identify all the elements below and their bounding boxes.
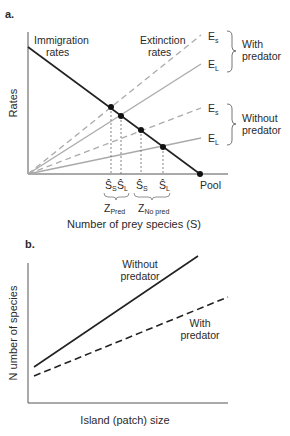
immigration-label-1: Immigration: [34, 34, 89, 46]
s-hat-label: ŜS: [136, 179, 148, 192]
without-predator-label-2: predator: [242, 124, 282, 136]
without-predator-line: [34, 256, 198, 367]
equilibrium-point: [108, 104, 114, 110]
es-with-label: Es: [208, 30, 219, 44]
z-no-pred-brace: [134, 193, 170, 200]
z-pred-label: ZPred: [104, 202, 125, 215]
panel-b-letter: b.: [25, 238, 35, 250]
without-predator-brace: [227, 104, 236, 145]
el-with-label: EL: [208, 58, 219, 72]
figure: a. Rates Immigration rates Extinction ra…: [0, 0, 290, 436]
panel-b-y-label: N umber of species: [7, 285, 19, 380]
es-without-label: Es: [208, 102, 219, 116]
pool-label: Pool: [200, 179, 221, 191]
extinction-label-1: Extinction: [140, 34, 186, 46]
with-predator-b-label-1: With: [190, 317, 211, 329]
pool-point: [197, 171, 203, 177]
without-predator-b-label-1: Without: [122, 258, 158, 270]
with-predator-label-2: predator: [242, 50, 282, 62]
immigration-line: [28, 47, 200, 174]
without-predator-label-1: Without: [242, 112, 278, 124]
z-no-pred-label: ZNo pred: [138, 202, 169, 216]
with-predator-b-label-2: predator: [180, 329, 220, 341]
panel-a: a. Rates Immigration rates Extinction ra…: [5, 8, 282, 230]
s-hat-label: ŜS: [105, 179, 117, 192]
equilibrium-point: [160, 144, 166, 150]
panel-a-x-label: Number of prey species (S): [67, 218, 201, 230]
panel-a-letter: a.: [5, 8, 14, 20]
without-predator-b-label-2: predator: [120, 270, 160, 282]
s-hat-label: ŜL: [117, 179, 128, 192]
extinction-label-2: rates: [148, 46, 171, 58]
s-hat-label: ŜL: [159, 179, 170, 192]
equilibrium-point: [138, 127, 144, 133]
immigration-label-2: rates: [46, 46, 69, 58]
es-without-predator-line: [28, 108, 201, 174]
el-without-label: EL: [208, 132, 219, 146]
el-with-predator-line: [28, 64, 201, 174]
with-predator-brace: [227, 31, 236, 72]
equilibrium-point: [118, 113, 124, 119]
with-predator-label-1: With: [242, 38, 263, 50]
panel-b: b. Without predator With predator N umbe…: [7, 238, 228, 426]
z-pred-brace: [104, 193, 129, 200]
panel-a-y-label: Rates: [7, 88, 19, 117]
panel-b-x-label: Island (patch) size: [80, 414, 169, 426]
